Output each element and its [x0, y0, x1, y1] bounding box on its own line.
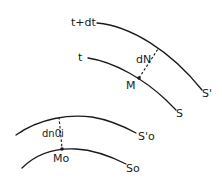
label-dN: dN	[136, 53, 151, 66]
label-S: S	[176, 107, 183, 120]
point-M-marker	[137, 76, 141, 80]
label-t: t	[78, 51, 83, 64]
label-dn0i: dn0i	[42, 128, 64, 139]
curve-S0-prime	[16, 116, 136, 135]
label-S-prime: S'	[202, 87, 212, 100]
curve-S0	[22, 149, 126, 168]
label-M: M	[126, 79, 136, 92]
label-M0: Mo	[53, 152, 69, 165]
label-S0-prime: S'o	[138, 130, 155, 143]
wavefront-diagram: t+dt t dN M S' S dn0i Mo S'o So	[0, 0, 222, 190]
label-S0: So	[126, 162, 140, 175]
point-M0-marker	[60, 147, 64, 151]
label-t-plus-dt: t+dt	[71, 16, 97, 29]
